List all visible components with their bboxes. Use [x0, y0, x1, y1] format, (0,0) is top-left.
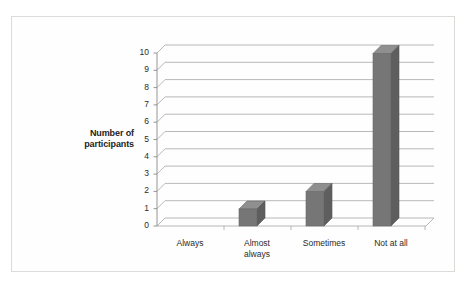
y-tick-label-1: 1: [129, 204, 149, 213]
x-category-label-not-at-all: Not at all: [355, 238, 427, 249]
y-tick-label-0: 0: [129, 221, 149, 230]
x-category-label-not-at-all-line-1: Not at all: [355, 238, 427, 249]
y-tick-label-2: 2: [129, 186, 149, 195]
y-tick-label-3: 3: [129, 169, 149, 178]
x-category-label-always-line-1: Always: [154, 238, 226, 249]
y-axis-ticks: [154, 53, 158, 226]
y-tick-label-7: 7: [129, 100, 149, 109]
y-tick-label-6: 6: [129, 117, 149, 126]
x-category-label-sometimes-line-1: Sometimes: [288, 238, 360, 249]
x-category-label-almost-always-line-2: always: [221, 249, 293, 260]
y-axis-title-line-2: participants: [56, 139, 134, 150]
bar-chart: Number of participants 10 9 8 7 6 5 4 3 …: [0, 0, 470, 288]
x-axis-ticks: [224, 226, 425, 230]
y-tick-label-4: 4: [129, 152, 149, 161]
y-tick-label-8: 8: [129, 83, 149, 92]
y-tick-label-5: 5: [129, 135, 149, 144]
x-category-label-sometimes: Sometimes: [288, 238, 360, 249]
y-tick-label-9: 9: [129, 65, 149, 74]
y-axis-title-line-1: Number of: [56, 128, 134, 139]
bar-not-at-all: [373, 46, 399, 227]
y-tick-label-10: 10: [129, 48, 149, 57]
bar-sometimes: [306, 184, 332, 227]
bar-almost-always: [239, 201, 265, 226]
x-category-label-always: Always: [154, 238, 226, 249]
y-axis-title: Number of participants: [56, 128, 134, 150]
x-category-label-almost-always-line-1: Almost: [221, 238, 293, 249]
x-category-label-almost-always: Almost always: [221, 238, 293, 259]
